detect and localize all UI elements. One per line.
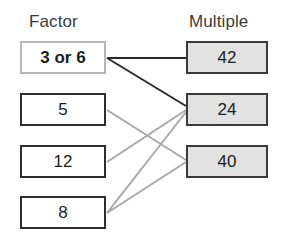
link-f3-m2 <box>107 162 186 213</box>
link-f3-m1 <box>107 112 186 213</box>
factor-node-0[interactable]: 3 or 6 <box>20 41 106 74</box>
factor-node-0-label: 3 or 6 <box>40 49 85 66</box>
multiple-node-0-label: 42 <box>218 49 237 66</box>
multiple-node-1-label: 24 <box>218 101 237 118</box>
factor-node-1-label: 5 <box>58 101 67 118</box>
multiple-node-2[interactable]: 40 <box>186 145 268 178</box>
factor-node-2-label: 12 <box>54 153 73 170</box>
factor-node-3[interactable]: 8 <box>20 196 106 229</box>
multiple-node-2-label: 40 <box>218 153 237 170</box>
factor-node-2[interactable]: 12 <box>20 145 106 178</box>
multiple-node-0[interactable]: 42 <box>186 41 268 74</box>
link-f0-m1 <box>107 58 186 106</box>
factor-multiple-diagram: Factor Multiple 3 or 6 5 12 8 42 24 40 <box>0 0 282 234</box>
multiple-node-1[interactable]: 24 <box>186 93 268 126</box>
factor-node-1[interactable]: 5 <box>20 93 106 126</box>
factor-node-3-label: 8 <box>58 204 67 221</box>
